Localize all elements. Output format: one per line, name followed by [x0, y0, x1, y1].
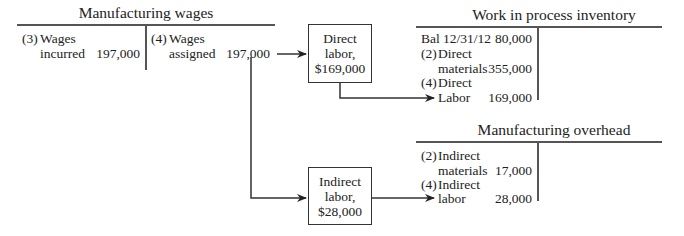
direct-labor-box: Direct labor, $169,000 — [308, 24, 372, 83]
entry-label: labor — [438, 192, 466, 207]
entry-ref: (3) — [22, 32, 38, 47]
entry-label: Direct — [438, 47, 472, 62]
entry-label: Wages — [169, 32, 205, 47]
entry-label: assigned — [169, 47, 216, 62]
entry-amount: 28,000 — [480, 192, 532, 207]
t-account-top-line — [416, 26, 662, 28]
entry-amount: 17,000 — [480, 164, 532, 179]
box-line: labor, — [315, 46, 366, 61]
entry-ref: (4) — [151, 32, 167, 47]
entry-amount: 197,000 — [90, 47, 140, 62]
account-title: Manufacturing overhead — [416, 121, 662, 139]
box-line: Direct — [315, 31, 366, 46]
t-account-divider — [537, 141, 539, 201]
box-amount: $169,000 — [315, 61, 366, 76]
entry-label: Labor — [438, 91, 470, 106]
entry-ref: (2) — [421, 47, 437, 62]
box-line: labor, — [318, 189, 362, 204]
entry-amount: 169,000 — [480, 91, 532, 106]
entry-ref: (2) — [421, 149, 437, 164]
entry-label: Wages — [40, 32, 76, 47]
entry-amount: 355,000 — [480, 62, 532, 77]
t-account-divider — [145, 24, 147, 70]
box-amount: $28,000 — [318, 204, 362, 219]
account-title: Work in process inventory — [416, 6, 662, 24]
entry-label: Direct — [438, 76, 472, 91]
indirect-labor-box: Indirect labor, $28,000 — [308, 167, 372, 225]
entry-label: incurred — [40, 47, 85, 62]
t-account-top-line — [416, 141, 662, 143]
entry-amount: 80,000 — [480, 32, 532, 47]
entry-ref: (4) — [421, 76, 437, 91]
entry-label: Indirect — [438, 149, 480, 164]
entry-amount: 197,000 — [218, 47, 270, 62]
entry-ref: (4) — [421, 178, 437, 193]
t-account-divider — [537, 26, 539, 100]
account-title: Manufacturing wages — [17, 4, 275, 22]
box-line: Indirect — [318, 174, 362, 189]
